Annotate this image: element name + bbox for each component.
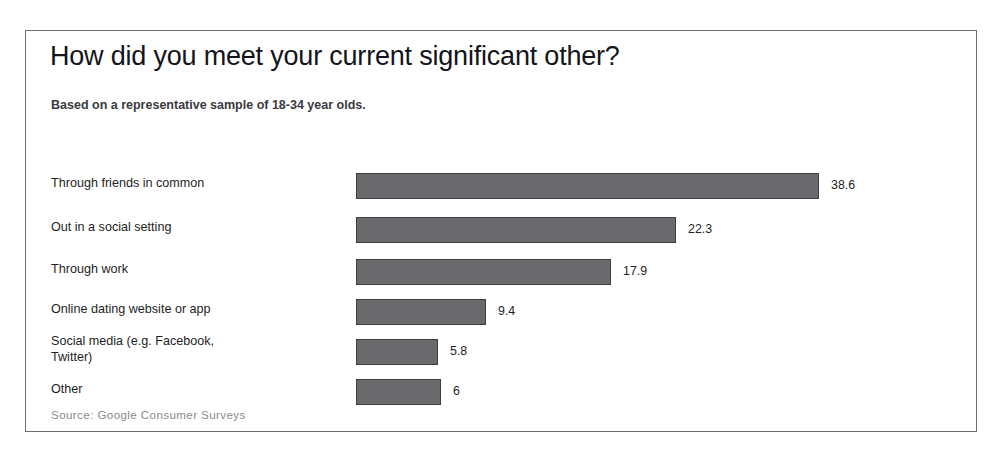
source-note: Source: Google Consumer Surveys [51, 408, 246, 421]
category-label: Other [51, 381, 351, 397]
bar-track [356, 259, 968, 285]
chart-title: How did you meet your current significan… [50, 41, 620, 72]
bar-track [356, 339, 968, 365]
chart-frame: How did you meet your current significan… [25, 30, 977, 432]
category-label: Through friends in common [51, 175, 351, 191]
bar-value-label: 6 [453, 385, 460, 397]
bar-fill[interactable] [356, 339, 438, 365]
bar-fill[interactable] [356, 217, 676, 243]
chart-subtitle: Based on a representative sample of 18-3… [51, 98, 366, 112]
category-label: Through work [51, 261, 351, 277]
bar-fill[interactable] [356, 173, 819, 199]
bar-fill[interactable] [356, 259, 611, 285]
bar-track [356, 299, 968, 325]
bar-track [356, 217, 968, 243]
bar-value-label: 38.6 [831, 179, 855, 191]
category-label: Out in a social setting [51, 219, 351, 235]
category-label: Online dating website or app [51, 301, 351, 317]
bar-fill[interactable] [356, 299, 486, 325]
bar-fill[interactable] [356, 379, 441, 405]
bar-track [356, 173, 968, 199]
bar-value-label: 17.9 [623, 265, 647, 277]
plot-area: Through friends in common38.6Out in a so… [26, 143, 976, 387]
bar-value-label: 22.3 [688, 223, 712, 235]
category-label: Social media (e.g. Facebook, Twitter) [51, 333, 351, 365]
bar-value-label: 5.8 [450, 345, 467, 357]
bar-value-label: 9.4 [498, 305, 515, 317]
bar-track [356, 379, 968, 405]
